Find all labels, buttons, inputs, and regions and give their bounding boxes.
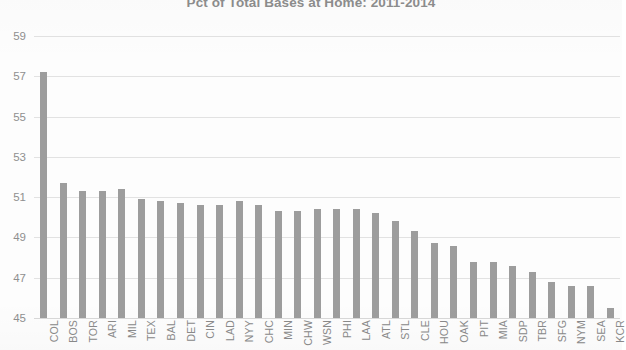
- x-axis: COLBOSTORARIMILTEXBALDETCINLADNYYCHCMINC…: [34, 318, 620, 350]
- x-axis-tick-label-sea: SEA: [595, 320, 607, 342]
- x-axis-tick-label-atl: ATL: [380, 320, 392, 339]
- bar-stl: [392, 221, 399, 318]
- x-axis-tick-label-oak: OAK: [458, 320, 470, 343]
- x-axis-tick-label-cin: CIN: [204, 320, 216, 339]
- x-axis-tick-label-nyy: NYY: [243, 320, 255, 342]
- x-axis-tick-label-tor: TOR: [87, 320, 99, 343]
- bar-cle: [411, 231, 418, 318]
- y-axis-tick-label: 51: [13, 191, 26, 203]
- bar-phi: [333, 209, 340, 318]
- x-axis-tick-label-min: MIN: [282, 320, 294, 340]
- x-axis-tick-label-laa: LAA: [360, 320, 372, 340]
- bar-min: [275, 211, 282, 318]
- x-axis-tick-label-phi: PHI: [341, 320, 353, 338]
- bar-pit: [470, 262, 477, 318]
- bar-tbr: [529, 272, 536, 318]
- x-axis-tick-label-stl: STL: [399, 320, 411, 340]
- bar-cin: [197, 205, 204, 318]
- bar-tex: [138, 199, 145, 318]
- bars-layer: [34, 36, 620, 318]
- y-axis-tick-label: 59: [13, 30, 26, 42]
- y-axis-tick-label: 57: [13, 70, 26, 82]
- bar-bos: [60, 183, 67, 318]
- y-axis: 4547495153555759: [0, 36, 34, 318]
- bar-col: [40, 72, 47, 318]
- y-axis-tick-label: 45: [13, 312, 26, 324]
- x-axis-tick-label-chc: CHC: [263, 320, 275, 343]
- x-axis-tick-label-tex: TEX: [145, 320, 157, 341]
- bar-ari: [99, 191, 106, 318]
- y-axis-tick-label: 47: [13, 272, 26, 284]
- x-axis-tick-label-bos: BOS: [67, 320, 79, 343]
- x-axis-tick-label-bal: BAL: [165, 320, 177, 340]
- bar-sdp: [509, 266, 516, 318]
- bar-wsn: [314, 209, 321, 318]
- x-axis-tick-label-pit: PIT: [478, 320, 490, 337]
- bar-tor: [79, 191, 86, 318]
- x-axis-tick-label-col: COL: [48, 320, 60, 342]
- x-axis-tick-label-ari: ARI: [106, 320, 118, 338]
- bar-laa: [353, 209, 360, 318]
- x-axis-tick-label-sfg: SFG: [556, 320, 568, 342]
- x-axis-tick-label-mil: MIL: [126, 320, 138, 338]
- y-axis-tick-label: 55: [13, 111, 26, 123]
- x-axis-tick-label-tbr: TBR: [536, 320, 548, 342]
- bar-mia: [490, 262, 497, 318]
- x-axis-tick-label-nym: NYM: [575, 320, 587, 344]
- x-axis-tick-label-det: DET: [185, 320, 197, 342]
- bar-hou: [431, 243, 438, 318]
- bar-det: [177, 203, 184, 318]
- chart-title: Pct of Total Bases at Home: 2011-2014: [0, 0, 622, 11]
- x-axis-tick-label-lad: LAD: [224, 320, 236, 341]
- bar-kcr: [607, 308, 614, 318]
- bar-sea: [587, 286, 594, 318]
- bar-nym: [568, 286, 575, 318]
- bar-oak: [450, 246, 457, 319]
- x-axis-tick-label-wsn: WSN: [321, 320, 333, 345]
- y-axis-tick-label: 49: [13, 231, 26, 243]
- bar-chw: [294, 211, 301, 318]
- x-axis-tick-label-sdp: SDP: [517, 320, 529, 342]
- x-axis-tick-label-hou: HOU: [438, 320, 450, 344]
- bar-nyy: [236, 201, 243, 318]
- bar-lad: [216, 205, 223, 318]
- x-axis-tick-label-cle: CLE: [419, 320, 431, 341]
- x-axis-tick-label-mia: MIA: [497, 320, 509, 339]
- x-axis-tick-label-chw: CHW: [302, 320, 314, 346]
- x-axis-tick-label-kcr: KCR: [614, 320, 626, 343]
- bar-chc: [255, 205, 262, 318]
- bar-sfg: [548, 282, 555, 318]
- y-axis-tick-label: 53: [13, 151, 26, 163]
- bar-atl: [372, 213, 379, 318]
- bar-bal: [157, 201, 164, 318]
- bar-mil: [118, 189, 125, 318]
